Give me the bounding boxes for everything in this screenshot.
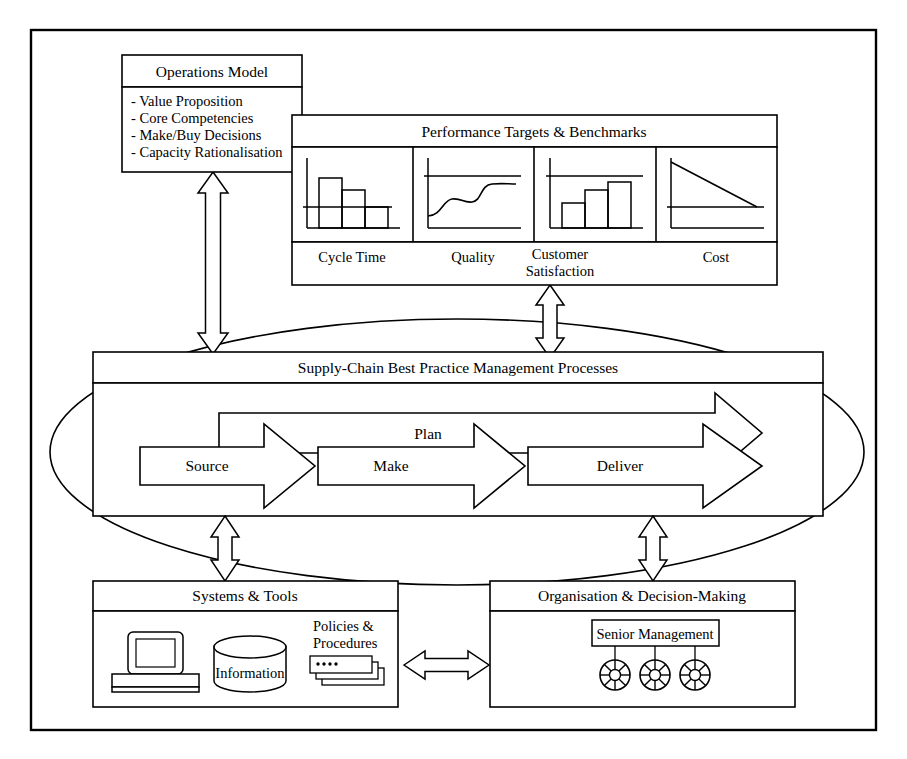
deliver-arrow-label: Deliver (597, 457, 644, 474)
systems-tools-panel: Systems & Tools Information Policies & P… (93, 581, 398, 707)
information-label: Information (215, 665, 285, 681)
organisation-title: Organisation & Decision-Making (538, 587, 746, 604)
senior-management-label: Senior Management (596, 626, 713, 642)
performance-cell-label-2-line1: Customer (532, 246, 589, 262)
operations-model-item-1: - Core Competencies (131, 110, 254, 126)
supply-chain-panel: Supply-Chain Best Practice Management Pr… (93, 352, 823, 516)
organisation-panel: Organisation & Decision-Making Senior Ma… (490, 581, 795, 707)
diagram-canvas: Operations Model - Value Proposition - C… (0, 0, 907, 759)
performance-cell-label-2-line2: Satisfaction (526, 263, 595, 279)
performance-cell-label-1: Quality (451, 249, 495, 265)
information-database-icon: Information (214, 636, 286, 692)
operations-model-title: Operations Model (156, 63, 268, 80)
systems-tools-title: Systems & Tools (192, 587, 297, 604)
supply-chain-title: Supply-Chain Best Practice Management Pr… (298, 359, 618, 376)
team-wheel-icon-0 (600, 660, 630, 690)
team-wheel-icon-2 (680, 660, 710, 690)
operations-model-item-2: - Make/Buy Decisions (131, 127, 262, 143)
plan-arrow-label: Plan (414, 425, 442, 442)
operations-model-item-0: - Value Proposition (131, 93, 243, 109)
performance-targets-panel: Performance Targets & Benchmarks (292, 115, 777, 285)
team-wheel-icon-1 (640, 660, 670, 690)
policies-procedures-label-line1: Policies & (313, 618, 375, 634)
performance-targets-title: Performance Targets & Benchmarks (421, 123, 646, 140)
performance-cell-label-3: Cost (703, 249, 730, 265)
source-arrow-label: Source (185, 457, 228, 474)
operations-model-panel: Operations Model - Value Proposition - C… (122, 55, 302, 172)
performance-cell-label-0: Cycle Time (318, 249, 385, 265)
policies-procedures-label-line2: Procedures (313, 635, 378, 651)
make-arrow-label: Make (373, 457, 408, 474)
operations-model-item-3: - Capacity Rationalisation (131, 144, 283, 160)
